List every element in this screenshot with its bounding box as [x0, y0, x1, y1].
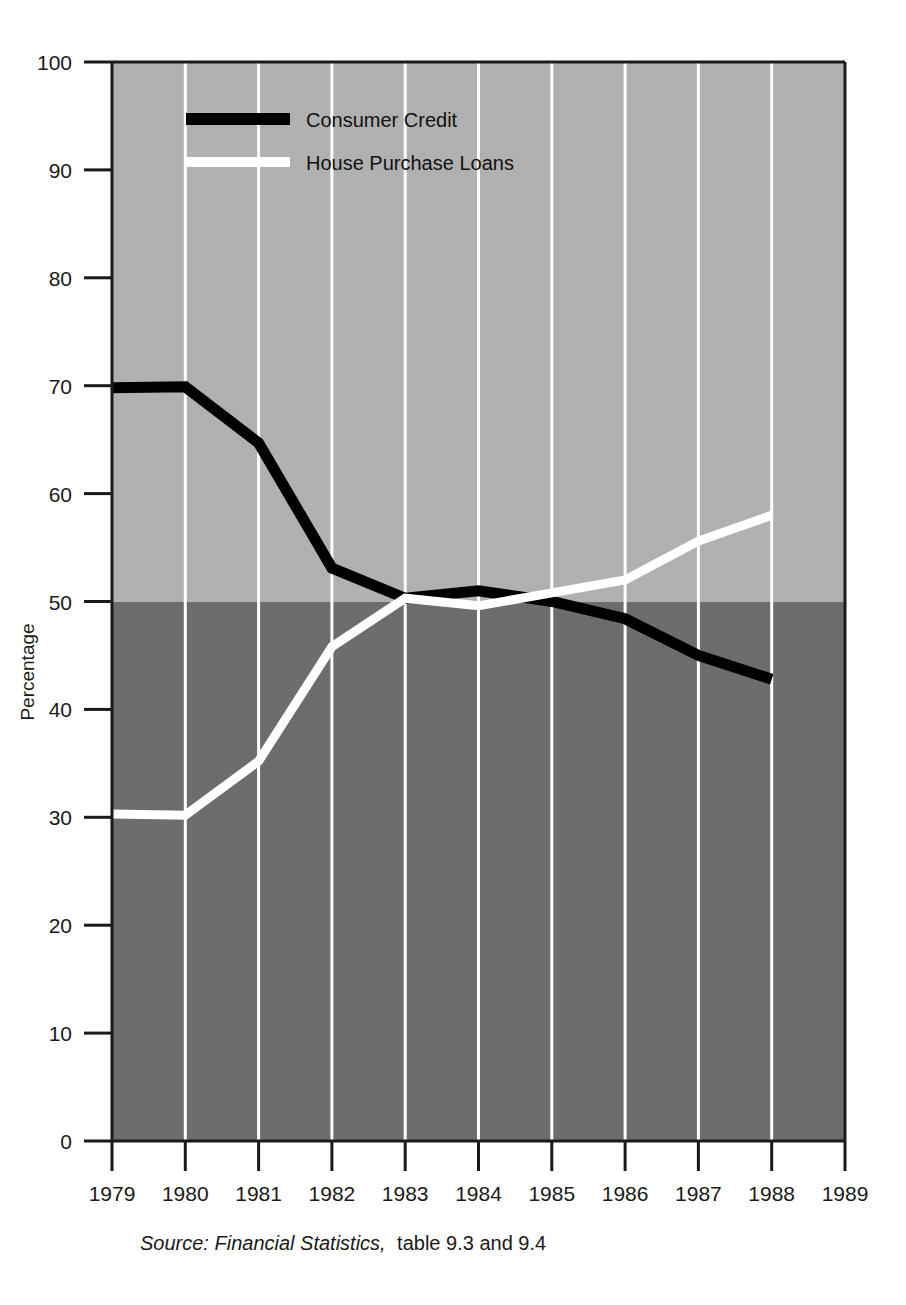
- y-tick-label-90: 90: [49, 159, 72, 182]
- y-tick-label-80: 80: [49, 267, 72, 290]
- x-tick-label-1984: 1984: [455, 1182, 502, 1205]
- legend-label-house-purchase-loans: House Purchase Loans: [306, 152, 514, 174]
- svg-text:Source: Financial Statistics,: Source: Financial Statistics, table 9.3 …: [140, 1232, 546, 1254]
- x-tick-label-1983: 1983: [382, 1182, 429, 1205]
- y-tick-label-20: 20: [49, 914, 72, 937]
- x-axis-tick-labels: 1979198019811982198319841985198619871988…: [89, 1182, 869, 1205]
- source-note-italic: Source: Financial Statistics,: [140, 1232, 386, 1254]
- x-tick-label-1988: 1988: [748, 1182, 795, 1205]
- x-tick-label-1982: 1982: [309, 1182, 356, 1205]
- y-tick-label-100: 100: [37, 51, 72, 74]
- line-chart: 0102030405060708090100 19791980198119821…: [0, 0, 906, 1305]
- x-tick-label-1989: 1989: [822, 1182, 869, 1205]
- y-tick-label-40: 40: [49, 698, 72, 721]
- y-axis-title-text: Percentage: [17, 623, 38, 720]
- chart-figure: 0102030405060708090100 19791980198119821…: [0, 0, 906, 1305]
- y-axis-title: Percentage: [17, 623, 38, 720]
- source-note: Source: Financial Statistics, table 9.3 …: [140, 1232, 546, 1254]
- y-tick-label-60: 60: [49, 483, 72, 506]
- x-tick-label-1986: 1986: [602, 1182, 649, 1205]
- x-tick-label-1979: 1979: [89, 1182, 136, 1205]
- x-tick-label-1985: 1985: [528, 1182, 575, 1205]
- y-tick-label-30: 30: [49, 806, 72, 829]
- y-tick-label-0: 0: [60, 1130, 72, 1153]
- legend-label-consumer-credit: Consumer Credit: [306, 109, 458, 131]
- x-tick-label-1987: 1987: [675, 1182, 722, 1205]
- x-tick-label-1980: 1980: [162, 1182, 209, 1205]
- source-note-plain: table 9.3 and 9.4: [397, 1232, 546, 1254]
- y-tick-label-50: 50: [49, 591, 72, 614]
- x-tick-label-1981: 1981: [235, 1182, 282, 1205]
- y-tick-label-70: 70: [49, 375, 72, 398]
- y-tick-label-10: 10: [49, 1022, 72, 1045]
